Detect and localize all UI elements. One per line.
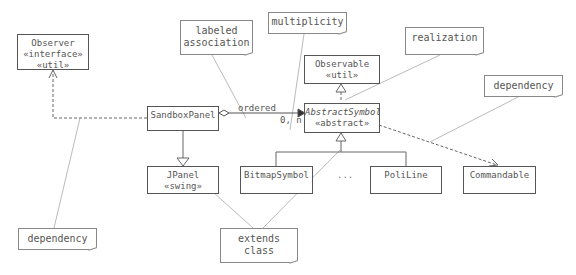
class-commandable[interactable]: Commandable — [463, 166, 536, 194]
note-realization[interactable]: realization — [405, 27, 484, 55]
class-name: AbstractSymbol — [305, 107, 379, 118]
class-name: SandboxPanel — [148, 110, 218, 121]
note-text: labeled — [181, 25, 252, 37]
dependency-sandboxpanel-observer — [49, 70, 147, 118]
class-name: PoliLine — [371, 170, 441, 181]
note-text: multiplicity — [269, 16, 346, 28]
note-extends-class[interactable]: extends class — [220, 228, 298, 263]
class-stereotype: «util» — [18, 60, 88, 71]
more-subclasses-ellipsis: ... — [337, 170, 353, 180]
generalization-subclasses-abstractsymbol — [276, 133, 406, 166]
class-observer[interactable]: Observer «interface» «util» — [17, 34, 89, 70]
class-poliline[interactable]: PoliLine — [370, 166, 442, 194]
generalization-sandboxpanel-jpanel — [177, 131, 189, 166]
note-link-dependency-right — [430, 96, 520, 142]
class-name: Observer — [18, 38, 88, 49]
realization-abstractsymbol-observable — [336, 84, 346, 100]
note-labeled-association[interactable]: labeled association — [180, 20, 253, 55]
uml-diagram-canvas: Observer «interface» «util» SandboxPanel… — [0, 0, 576, 275]
note-text: association — [181, 37, 252, 49]
note-text: class — [221, 245, 297, 257]
note-text: dependency — [485, 80, 562, 92]
note-text: realization — [406, 32, 483, 44]
class-sandboxpanel[interactable]: SandboxPanel — [147, 106, 219, 131]
note-link-dependency-left — [54, 118, 80, 228]
note-dependency-left[interactable]: dependency — [18, 228, 97, 250]
note-text: dependency — [19, 233, 96, 245]
association-multiplicity: 0, n — [280, 115, 302, 125]
class-name: BitmapSymbol — [241, 170, 312, 181]
dependency-abstractsymbol-commandable — [379, 125, 498, 166]
class-stereotype: «util» — [305, 70, 379, 81]
association-label: ordered — [238, 103, 276, 113]
class-stereotype: «interface» — [18, 49, 88, 60]
class-stereotype: «swing» — [148, 181, 218, 192]
class-stereotype: «abstract» — [305, 118, 379, 129]
class-name: Commandable — [464, 170, 535, 181]
class-name: Observable — [305, 59, 379, 70]
class-bitmapsymbol[interactable]: BitmapSymbol — [240, 166, 313, 194]
note-dependency-right[interactable]: dependency — [484, 75, 563, 97]
note-text: extends — [221, 233, 297, 245]
class-name: JPanel — [148, 170, 218, 181]
class-abstractsymbol[interactable]: AbstractSymbol «abstract» — [304, 103, 380, 133]
class-observable[interactable]: Observable «util» — [304, 55, 380, 84]
class-jpanel[interactable]: JPanel «swing» — [147, 166, 219, 194]
note-multiplicity[interactable]: multiplicity — [268, 12, 347, 34]
